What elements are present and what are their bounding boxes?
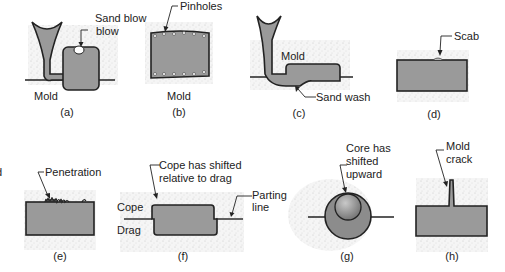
label-crack: crack xyxy=(446,153,473,165)
caption-d: (d) xyxy=(427,108,440,120)
caption-g: (g) xyxy=(340,250,353,262)
panel-b-pinholes: Pinholes Mold (b) xyxy=(145,0,223,118)
casting-defects-diagram: d Sand blow Mold (a) blow Pinholes Mold … xyxy=(0,0,505,272)
label-relative-drag: relative to drag xyxy=(159,172,232,184)
caption-c: (c) xyxy=(293,107,306,119)
label-mold-h: Mold xyxy=(446,140,470,152)
label-parting: Parting xyxy=(252,189,287,201)
label-mold-b: Mold xyxy=(167,90,191,102)
label-core-has: Core has xyxy=(346,142,391,154)
label-cope-shifted: Cope has shifted xyxy=(159,159,242,171)
caption-b: (b) xyxy=(172,106,185,118)
label-mold-a: Mold xyxy=(34,90,58,102)
label-scab: Scab xyxy=(454,30,479,42)
caption-a: (a) xyxy=(60,106,73,118)
panel-c-sand-wash: Mold Sand wash (c) xyxy=(250,16,370,119)
panel-d-scab: Scab (d) xyxy=(397,30,479,120)
label-shifted: shifted xyxy=(346,155,378,167)
panel-g-core-shift: Core has shifted upward (g) xyxy=(288,142,394,262)
label-penetration: Penetration xyxy=(45,166,101,178)
label-sand-wash: Sand wash xyxy=(316,91,370,103)
edge-fragment-text: d xyxy=(0,166,2,178)
caption-h: (h) xyxy=(445,250,458,262)
caption-e: (e) xyxy=(53,250,66,262)
label-mold-c: Mold xyxy=(281,50,305,62)
label-sand: Sand blow xyxy=(95,12,146,24)
panel-h-mold-crack: Mold crack (h) xyxy=(416,140,488,262)
caption-f: (f) xyxy=(178,250,188,262)
label-blow: blow xyxy=(96,25,119,37)
panel-f-mold-shift: Cope has shifted relative to drag Cope D… xyxy=(117,159,287,262)
panel-a-sand-blow: Sand blow Mold (a) xyxy=(25,12,146,118)
label-drag: Drag xyxy=(117,224,141,236)
label-line: line xyxy=(252,201,269,213)
label-upward: upward xyxy=(346,168,382,180)
label-pinholes: Pinholes xyxy=(180,0,223,12)
label-cope: Cope xyxy=(117,201,143,213)
panel-e-penetration: Penetration (e) xyxy=(24,166,101,262)
